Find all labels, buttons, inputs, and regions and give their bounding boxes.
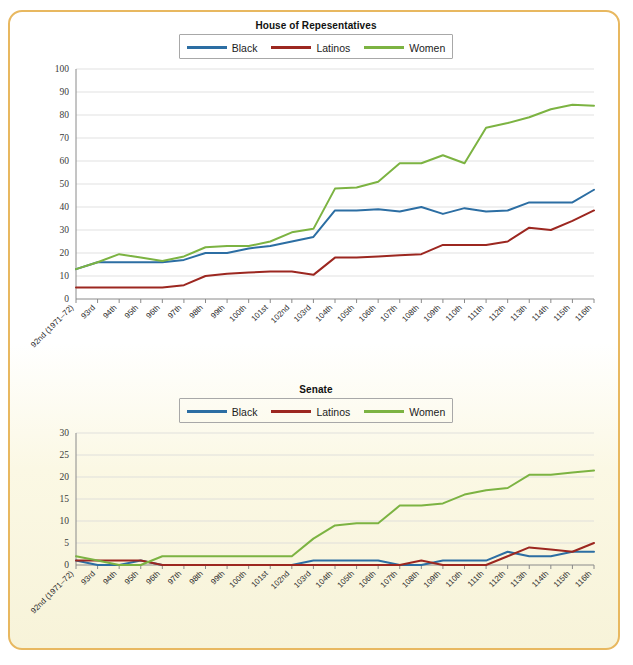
y-axis-tick-label: 100 bbox=[55, 64, 70, 74]
legend-label-women: Women bbox=[409, 406, 445, 418]
house-legend: BlackLatinosWomen bbox=[179, 34, 454, 59]
x-axis-tick-label: 101st bbox=[249, 568, 270, 589]
y-axis-tick-label: 80 bbox=[60, 110, 70, 120]
x-axis-tick-label: 94th bbox=[101, 303, 118, 320]
x-axis-tick-label: 100th bbox=[228, 569, 249, 590]
x-axis-tick-label: 93rd bbox=[79, 569, 97, 587]
x-axis-tick-label: 106th bbox=[357, 569, 378, 590]
x-axis-tick-label: 109th bbox=[422, 569, 443, 590]
legend-item-latinos: Latinos bbox=[271, 402, 350, 420]
x-axis-tick-label: 98th bbox=[188, 569, 205, 586]
x-axis-tick-label: 100th bbox=[228, 303, 249, 324]
x-axis-tick-label: 97th bbox=[166, 569, 183, 586]
y-axis-tick-label: 15 bbox=[60, 494, 70, 504]
x-axis-tick-label: 95th bbox=[123, 569, 140, 586]
x-axis-tick-label: 109th bbox=[422, 303, 443, 324]
y-axis-tick-label: 70 bbox=[60, 133, 70, 143]
x-axis-tick-label: 110th bbox=[444, 303, 464, 323]
y-axis-tick-label: 90 bbox=[60, 87, 70, 97]
legend-item-women: Women bbox=[364, 402, 445, 420]
y-axis-tick-label: 5 bbox=[64, 538, 69, 548]
y-axis-tick-label: 30 bbox=[60, 428, 70, 438]
chart-figure-frame: House of Repesentatives BlackLatinosWome… bbox=[8, 10, 620, 650]
legend-swatch-black bbox=[187, 46, 227, 49]
x-axis-tick-label: 92nd (1971–72) bbox=[29, 303, 76, 350]
senate-chart-title: Senate bbox=[10, 380, 620, 398]
x-axis-tick-label: 113th bbox=[509, 303, 529, 323]
x-axis-tick-label: 102nd bbox=[269, 303, 291, 325]
x-axis-tick-label: 116th bbox=[573, 303, 593, 323]
y-axis-tick-label: 25 bbox=[60, 450, 70, 460]
legend-label-black: Black bbox=[232, 406, 258, 418]
legend-swatch-women bbox=[364, 46, 404, 49]
x-axis-tick-label: 114th bbox=[530, 303, 550, 323]
x-axis-tick-label: 96th bbox=[144, 569, 161, 586]
x-axis-tick-label: 106th bbox=[357, 303, 378, 324]
house-chart-panel: House of Repesentatives BlackLatinosWome… bbox=[10, 16, 620, 376]
x-axis-tick-label: 98th bbox=[188, 303, 205, 320]
x-axis-tick-label: 99th bbox=[209, 569, 226, 586]
house-legend-wrapper: BlackLatinosWomen bbox=[10, 34, 620, 61]
legend-item-latinos: Latinos bbox=[271, 38, 350, 56]
x-axis-tick-label: 103rd bbox=[292, 569, 313, 590]
series-line-women bbox=[76, 104, 594, 268]
legend-label-latinos: Latinos bbox=[316, 42, 350, 54]
legend-swatch-latinos bbox=[271, 46, 311, 49]
x-axis-tick-label: 104th bbox=[314, 569, 335, 590]
senate-legend-wrapper: BlackLatinosWomen bbox=[10, 398, 620, 425]
y-axis-tick-label: 50 bbox=[60, 179, 70, 189]
x-axis-tick-label: 111th bbox=[466, 303, 486, 323]
x-axis-tick-label: 94th bbox=[101, 569, 118, 586]
x-axis-tick-label: 99th bbox=[209, 303, 226, 320]
x-axis-tick-label: 108th bbox=[400, 569, 421, 590]
x-axis-tick-label: 103rd bbox=[292, 303, 313, 324]
y-axis-tick-label: 30 bbox=[60, 225, 70, 235]
senate-chart-plot: 05101520253092nd (1971–72)93rd94th95th96… bbox=[16, 425, 616, 643]
legend-label-latinos: Latinos bbox=[316, 406, 350, 418]
legend-item-women: Women bbox=[364, 38, 445, 56]
x-axis-tick-label: 110th bbox=[444, 569, 464, 589]
x-axis-tick-label: 112th bbox=[487, 303, 507, 323]
x-axis-tick-label: 107th bbox=[379, 569, 400, 590]
legend-item-black: Black bbox=[187, 402, 258, 420]
legend-swatch-black bbox=[187, 410, 227, 413]
x-axis-tick-label: 95th bbox=[123, 303, 140, 320]
y-axis-tick-label: 40 bbox=[60, 202, 70, 212]
house-chart-plot: 010203040506070809010092nd (1971–72)93rd… bbox=[16, 61, 616, 371]
legend-label-black: Black bbox=[232, 42, 258, 54]
legend-item-black: Black bbox=[187, 38, 258, 56]
x-axis-tick-label: 102nd bbox=[269, 569, 291, 591]
x-axis-tick-label: 111th bbox=[466, 569, 486, 589]
y-axis-tick-label: 10 bbox=[60, 271, 70, 281]
x-axis-tick-label: 93rd bbox=[79, 303, 97, 321]
x-axis-tick-label: 113th bbox=[509, 569, 529, 589]
x-axis-tick-label: 108th bbox=[400, 303, 421, 324]
y-axis-tick-label: 20 bbox=[60, 472, 70, 482]
x-axis-tick-label: 107th bbox=[379, 303, 400, 324]
legend-swatch-women bbox=[364, 410, 404, 413]
y-axis-tick-label: 20 bbox=[60, 248, 70, 258]
legend-label-women: Women bbox=[409, 42, 445, 54]
legend-swatch-latinos bbox=[271, 410, 311, 413]
x-axis-tick-label: 112th bbox=[487, 569, 507, 589]
house-chart-title: House of Repesentatives bbox=[10, 16, 620, 34]
series-line-women bbox=[76, 470, 594, 565]
x-axis-tick-label: 105th bbox=[335, 303, 356, 324]
x-axis-tick-label: 114th bbox=[530, 569, 550, 589]
x-axis-tick-label: 97th bbox=[166, 303, 183, 320]
x-axis-tick-label: 92nd (1971–72) bbox=[29, 569, 76, 616]
x-axis-tick-label: 105th bbox=[335, 569, 356, 590]
senate-legend: BlackLatinosWomen bbox=[179, 398, 454, 423]
y-axis-tick-label: 10 bbox=[60, 516, 70, 526]
x-axis-tick-label: 115th bbox=[552, 569, 572, 589]
y-axis-tick-label: 60 bbox=[60, 156, 70, 166]
x-axis-tick-label: 96th bbox=[144, 303, 161, 320]
x-axis-tick-label: 116th bbox=[573, 569, 593, 589]
x-axis-tick-label: 115th bbox=[552, 303, 572, 323]
x-axis-tick-label: 104th bbox=[314, 303, 335, 324]
senate-chart-panel: Senate BlackLatinosWomen 05101520253092n… bbox=[10, 380, 620, 648]
x-axis-tick-label: 101st bbox=[249, 302, 270, 323]
